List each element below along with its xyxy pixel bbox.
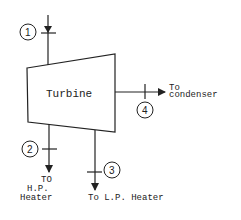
stream-3-lp-heater: 3 To L.P. Heater <box>87 130 164 203</box>
stream-2-number: 2 <box>27 144 33 155</box>
hp-heater-label-line3: Heater <box>20 193 52 203</box>
turbine-body: Turbine <box>27 54 115 132</box>
turbine-diagram: Turbine 1 4 To condenser 2 TO H.P. Heate… <box>0 0 241 220</box>
condenser-label-line2: condenser <box>169 90 218 100</box>
inlet-arrow-icon <box>44 26 52 33</box>
stream-4-condenser: 4 To condenser <box>115 83 218 118</box>
turbine-label: Turbine <box>46 88 92 100</box>
stream-1-inlet: 1 <box>20 15 56 65</box>
stream-3-number: 3 <box>109 165 115 176</box>
lp-heater-label: To L.P. Heater <box>88 193 164 203</box>
stream-2-hp-heater: 2 TO H.P. Heater <box>20 124 57 203</box>
stream-1-number: 1 <box>25 27 31 38</box>
stream-4-number: 4 <box>142 105 148 116</box>
